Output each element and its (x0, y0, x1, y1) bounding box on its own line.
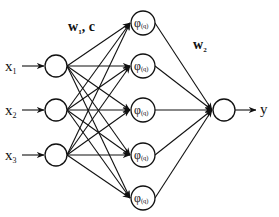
rbf-node: φ(q) (131, 143, 155, 167)
weights-layer2-label: w2 (193, 37, 207, 54)
input-arrows (22, 66, 44, 155)
rbf-network-diagram: x1 x2 x3 φ(q) φ(q) φ(q) φ(q) φ(q) y w1, … (0, 0, 279, 217)
input-label-x3: x3 (5, 147, 17, 165)
input-node (45, 99, 67, 121)
input-labels: x1 x2 x3 (5, 58, 17, 165)
input-layer (45, 55, 67, 166)
rbf-node: φ(q) (131, 186, 155, 210)
rbf-node: φ(q) (131, 11, 155, 35)
input-node (45, 144, 67, 166)
input-label-x2: x2 (5, 102, 17, 120)
weights-layer1-label: w1, c (68, 19, 95, 36)
output-node (213, 99, 235, 121)
rbf-node: φ(q) (131, 98, 155, 122)
layer1-connections (67, 23, 130, 198)
rbf-node: φ(q) (131, 54, 155, 78)
input-label-x1: x1 (5, 58, 17, 76)
input-node (45, 55, 67, 77)
hidden-layer: φ(q) φ(q) φ(q) φ(q) φ(q) (131, 11, 155, 210)
output-label-y: y (260, 101, 268, 117)
